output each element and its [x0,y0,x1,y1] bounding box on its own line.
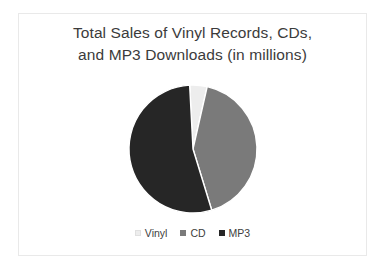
chart-slide: Total Sales of Vinyl Records, CDs, and M… [0,0,385,271]
legend-swatch-icon-vinyl [135,230,141,236]
legend-item-cd[interactable]: CD [180,228,205,239]
legend-swatch-icon-mp3 [219,230,225,236]
pie-chart [126,82,260,216]
legend-label-vinyl: Vinyl [145,228,168,239]
pie-slice-group [129,85,257,213]
legend-item-vinyl[interactable]: Vinyl [135,228,168,239]
legend-item-mp3[interactable]: MP3 [219,228,251,239]
legend-swatch-icon-cd [180,230,186,236]
legend-label-cd: CD [190,228,205,239]
legend-label-mp3: MP3 [229,228,251,239]
chart-legend: VinylCDMP3 [0,228,385,239]
